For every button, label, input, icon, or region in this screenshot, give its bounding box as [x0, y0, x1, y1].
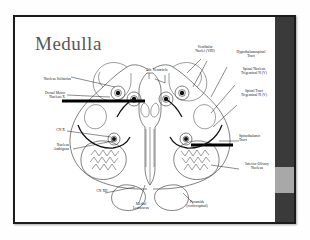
label-medial-lemniscus: Medial Lemniscus [119, 202, 163, 211]
label-cn-x: CN X [31, 128, 65, 132]
label-spinal-tract-trigeminal: Spinal Tract Trigeminal N (V) [228, 89, 280, 98]
label-vestibular-nuclei: Vestibular Nuclei (VIII) [182, 45, 228, 54]
scrollbar-thumb[interactable] [275, 167, 294, 193]
label-pyramids: Pyramids (corticospinal) [172, 200, 222, 209]
label-fourth-ventricle: 4th Ventricle [133, 67, 181, 72]
slide-canvas: Medulla [15, 17, 294, 222]
scrollbar-track[interactable] [275, 17, 294, 222]
slide-frame: Medulla [13, 15, 296, 224]
label-nucleus-solitarius: Nucleus Solitarius [25, 77, 71, 81]
label-spinal-nucleus-trigeminal: Spinal Nucleus Trigeminal N (V) [228, 67, 280, 76]
screenshot-root: Medulla [0, 0, 310, 240]
label-dorsal-motor-nucleus-x: Dorsal Motor Nucleus X [19, 91, 65, 100]
medulla-diagram [15, 17, 294, 222]
label-nucleus-ambiguus: Nucleus Ambiguus [25, 143, 69, 152]
label-hypothalamospinal-tract: Hypothalamospinal Tract [224, 50, 278, 59]
label-cn-xii: CN XII [85, 189, 119, 193]
